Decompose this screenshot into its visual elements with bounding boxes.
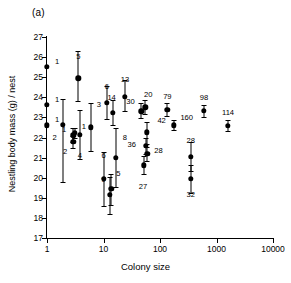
data-point-sample-size-label: 1 bbox=[55, 96, 59, 104]
error-bar-cap bbox=[144, 144, 149, 145]
x-axis-tick-label: 10000 bbox=[261, 245, 285, 254]
error-bar-cap bbox=[165, 103, 170, 104]
data-point-sample-size-label: 30 bbox=[126, 99, 134, 107]
data-point-sample-size-label: 28 bbox=[154, 147, 162, 155]
data-point-sample-size-label: 20 bbox=[144, 92, 152, 100]
error-bar-cap bbox=[107, 214, 112, 215]
data-point bbox=[44, 123, 49, 128]
x-axis-tick bbox=[47, 238, 48, 243]
error-bar-cap bbox=[201, 105, 206, 106]
error-bar-cap bbox=[144, 122, 149, 123]
y-axis-tick-label: 21 bbox=[23, 154, 43, 163]
data-point bbox=[77, 132, 82, 137]
error-bar-cap bbox=[141, 156, 146, 157]
data-point-sample-size-label: 13 bbox=[121, 76, 129, 84]
plot-area: 1718192021222324252627110100100010000111… bbox=[47, 37, 273, 238]
data-point bbox=[76, 76, 81, 81]
y-axis-tick-label: 27 bbox=[23, 33, 43, 42]
data-point bbox=[188, 176, 193, 181]
x-axis-title: Colony size bbox=[0, 261, 291, 272]
data-point-sample-size-label: 5 bbox=[116, 170, 120, 178]
error-bar-cap bbox=[113, 187, 118, 188]
error-bar-cap bbox=[226, 131, 231, 132]
error-bar-cap bbox=[171, 130, 176, 131]
data-point-sample-size-label: 1 bbox=[55, 58, 59, 66]
figure-panel: (a) Nestling body mass (g) / nest Colony… bbox=[0, 0, 291, 283]
data-point bbox=[201, 108, 206, 113]
data-point-sample-size-label: 79 bbox=[163, 93, 171, 101]
data-point bbox=[165, 107, 170, 112]
error-bar-cap bbox=[101, 206, 106, 207]
data-point-sample-size-label: 8 bbox=[123, 134, 127, 142]
error-bar-cap bbox=[141, 174, 146, 175]
data-point bbox=[110, 110, 115, 115]
error-bar-cap bbox=[201, 117, 206, 118]
y-axis-tick-label: 18 bbox=[23, 214, 43, 223]
data-point-sample-size-label: 9 bbox=[101, 176, 105, 184]
error-bar-cap bbox=[104, 119, 109, 120]
data-point bbox=[171, 123, 176, 128]
data-point-sample-size-label: 98 bbox=[200, 94, 208, 102]
data-point-sample-size-label: 3 bbox=[97, 102, 101, 110]
error-bar-cap bbox=[60, 182, 65, 183]
error-bar bbox=[62, 99, 63, 182]
y-axis-tick-label: 23 bbox=[23, 113, 43, 122]
data-point bbox=[225, 123, 230, 128]
x-axis-tick-label: 100 bbox=[153, 245, 167, 254]
x-axis-tick bbox=[217, 238, 218, 243]
error-bar-cap bbox=[72, 138, 77, 139]
data-point-sample-size-label: 5 bbox=[76, 53, 80, 61]
data-point-sample-size-label: 160 bbox=[180, 115, 193, 123]
data-point-sample-size-label: 4 bbox=[78, 152, 82, 160]
x-axis-tick bbox=[160, 238, 161, 243]
error-bar-cap bbox=[171, 120, 176, 121]
x-axis-tick bbox=[104, 238, 105, 243]
data-point-sample-size-label: 6 bbox=[101, 152, 105, 160]
x-axis-tick-label: 1 bbox=[45, 245, 50, 254]
data-point-sample-size-label: 28 bbox=[187, 137, 195, 145]
data-point bbox=[141, 163, 146, 168]
data-point bbox=[44, 64, 49, 69]
data-point bbox=[70, 139, 75, 144]
data-point bbox=[144, 130, 149, 135]
data-point-sample-size-label: 6 bbox=[105, 83, 109, 91]
panel-label: (a) bbox=[32, 7, 45, 18]
y-axis-tick-label: 19 bbox=[23, 194, 43, 203]
data-point bbox=[145, 151, 150, 156]
error-bar-cap bbox=[143, 114, 148, 115]
error-bar-cap bbox=[143, 100, 148, 101]
data-point-sample-size-label: 14 bbox=[107, 94, 115, 102]
data-point bbox=[113, 155, 118, 160]
data-point-sample-size-label: 2 bbox=[53, 134, 57, 142]
y-axis-tick-label: 24 bbox=[23, 93, 43, 102]
data-point bbox=[188, 154, 193, 159]
error-bar-cap bbox=[113, 128, 118, 129]
error-bar-cap bbox=[165, 116, 170, 117]
data-point bbox=[143, 105, 148, 110]
data-point bbox=[88, 125, 93, 130]
x-axis-tick-label: 10 bbox=[99, 245, 108, 254]
data-point-sample-size-label: 32 bbox=[187, 191, 195, 199]
data-point-sample-size-label: 2 bbox=[63, 148, 67, 156]
y-axis-tick-label: 20 bbox=[23, 174, 43, 183]
data-point-sample-size-label: 36 bbox=[128, 141, 136, 149]
error-bar-cap bbox=[77, 110, 82, 111]
data-point-sample-size-label: 1 bbox=[55, 117, 59, 125]
error-bar-cap bbox=[72, 128, 77, 129]
y-axis-tick-label: 26 bbox=[23, 53, 43, 62]
error-bar-cap bbox=[60, 99, 65, 100]
error-bar-cap bbox=[226, 120, 231, 121]
error-bar-cap bbox=[139, 118, 144, 119]
error-bar-cap bbox=[88, 151, 93, 152]
y-axis-tick-label: 17 bbox=[23, 234, 43, 243]
y-axis-tick-label: 22 bbox=[23, 134, 43, 143]
error-bar-cap bbox=[145, 161, 150, 162]
error-bar-cap bbox=[145, 147, 150, 148]
x-axis-tick bbox=[273, 238, 274, 243]
error-bar-cap bbox=[109, 205, 114, 206]
error-bar-cap bbox=[122, 111, 127, 112]
data-point-sample-size-label: 1 bbox=[62, 127, 66, 135]
y-axis-tick-label: 25 bbox=[23, 73, 43, 82]
data-point bbox=[44, 102, 49, 107]
data-point-sample-size-label: 27 bbox=[139, 183, 147, 191]
